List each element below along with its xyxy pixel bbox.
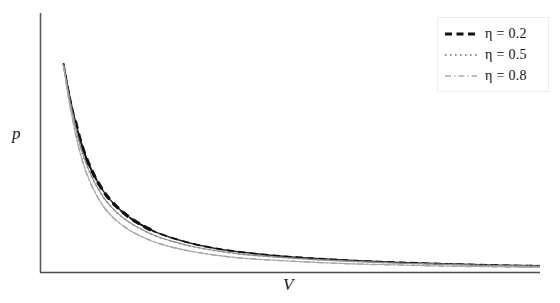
legend-label-2: η = 0.8 — [485, 68, 527, 84]
chart-figure: p V η = 0.2 η = 0.5 η = 0.8 — [0, 0, 560, 303]
y-axis-label: p — [12, 124, 21, 144]
legend-sample-line-0 — [444, 27, 478, 41]
curve-1-emphasis — [63, 63, 540, 265]
x-axis-label: V — [283, 275, 293, 295]
legend-box: η = 0.2 η = 0.5 η = 0.8 — [437, 17, 549, 92]
curve-group — [63, 63, 540, 267]
legend-sample-line-1 — [444, 48, 478, 62]
legend-label-0: η = 0.2 — [485, 26, 527, 42]
curve-2 — [63, 65, 540, 267]
curve-1 — [63, 63, 540, 265]
curve-3 — [63, 66, 540, 267]
curve-baseline — [63, 65, 540, 267]
legend-entry[interactable]: η = 0.5 — [444, 44, 542, 65]
legend-entry[interactable]: η = 0.2 — [444, 23, 542, 44]
curve-baseline — [63, 66, 540, 267]
legend-label-1: η = 0.5 — [485, 47, 527, 63]
legend-entry[interactable]: η = 0.8 — [444, 65, 542, 86]
legend-sample-line-2 — [444, 69, 478, 83]
curve-baseline — [63, 63, 540, 265]
